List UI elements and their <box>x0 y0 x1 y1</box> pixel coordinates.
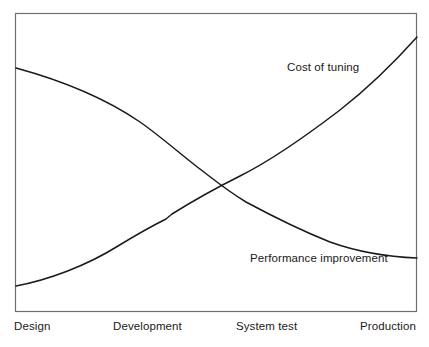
line-chart-canvas <box>0 0 429 347</box>
x-axis-tick-development: Development <box>113 320 182 333</box>
x-axis-tick-system-test: System test <box>236 320 297 333</box>
series-annotation-cost-of-tuning: Cost of tuning <box>287 61 359 74</box>
chart-figure: Cost of tuning Performance improvement D… <box>0 0 429 347</box>
series-annotation-performance-improvement: Performance improvement <box>250 252 388 265</box>
x-axis-tick-production: Production <box>360 320 416 333</box>
plot-frame <box>16 14 417 312</box>
x-axis-tick-design: Design <box>14 320 50 333</box>
